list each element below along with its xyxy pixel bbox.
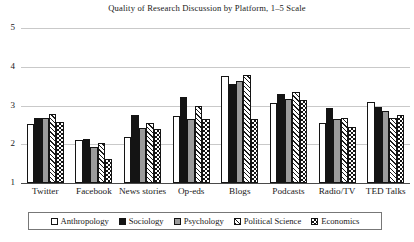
bar xyxy=(83,139,90,183)
bar xyxy=(173,116,180,183)
bar-set xyxy=(173,28,210,183)
bar-set xyxy=(124,28,161,183)
x-axis-label: Facebook xyxy=(70,186,119,197)
x-axis-label: Twitter xyxy=(21,186,70,197)
bar xyxy=(341,118,348,183)
bar-group xyxy=(270,28,307,183)
bar-group xyxy=(75,28,112,183)
bar-set xyxy=(221,28,258,183)
legend-swatch-icon xyxy=(234,218,241,225)
legend-swatch-icon xyxy=(311,218,318,225)
bar xyxy=(251,119,258,183)
gridline-1 xyxy=(21,183,410,184)
bar xyxy=(56,122,63,183)
chart-title: Quality of Research Discussion by Platfo… xyxy=(0,3,414,13)
legend-item[interactable]: Anthropology xyxy=(51,217,109,226)
bar-set xyxy=(27,28,64,183)
y-tick-label-5: 5 xyxy=(0,23,15,32)
bar xyxy=(348,127,355,183)
bar xyxy=(154,129,161,183)
bar-set xyxy=(319,28,356,183)
y-tick-label-3: 3 xyxy=(0,101,15,110)
legend-label: Psychology xyxy=(184,217,224,226)
plot-area: 12345 xyxy=(21,28,410,183)
legend-label: Political Science xyxy=(244,217,302,226)
x-axis-label: TED Talks xyxy=(361,186,410,197)
x-axis-label: News stories xyxy=(118,186,167,197)
bar-set xyxy=(367,28,404,183)
legend-item[interactable]: Sociology xyxy=(119,217,164,226)
bar xyxy=(202,119,209,183)
bar xyxy=(221,76,228,183)
x-axis-label: Op-eds xyxy=(167,186,216,197)
y-tick-label-4: 4 xyxy=(0,62,15,71)
bar xyxy=(146,123,153,183)
bar xyxy=(382,111,389,183)
legend-label: Economics xyxy=(321,217,359,226)
bar xyxy=(367,102,374,183)
bar xyxy=(42,118,49,183)
x-axis-label: Podcasts xyxy=(264,186,313,197)
bar xyxy=(397,115,404,183)
bar xyxy=(75,140,82,183)
bar xyxy=(49,114,56,183)
legend-swatch-icon xyxy=(174,218,181,225)
bar-chart: Quality of Research Discussion by Platfo… xyxy=(0,0,414,242)
bar xyxy=(195,106,202,183)
bar-set xyxy=(270,28,307,183)
bar xyxy=(285,99,292,183)
bar xyxy=(292,92,299,183)
legend-label: Anthropology xyxy=(61,217,109,226)
legend-item[interactable]: Psychology xyxy=(174,217,224,226)
bar xyxy=(34,118,41,183)
bar-group xyxy=(221,28,258,183)
bar xyxy=(105,159,112,183)
bar xyxy=(277,94,284,184)
y-tick-label-2: 2 xyxy=(0,139,15,148)
bar xyxy=(180,97,187,183)
bar xyxy=(131,115,138,183)
bar xyxy=(98,143,105,183)
legend-swatch-icon xyxy=(119,218,126,225)
bar xyxy=(389,118,396,183)
bar-group xyxy=(319,28,356,183)
bar xyxy=(27,124,34,183)
y-tick-label-1: 1 xyxy=(0,178,15,187)
bar xyxy=(243,75,250,183)
bar xyxy=(326,108,333,183)
bar xyxy=(229,84,236,183)
bar xyxy=(270,103,277,183)
bar-group xyxy=(173,28,210,183)
x-axis-label: Radio/TV xyxy=(313,186,362,197)
bar xyxy=(124,137,131,183)
x-axis-label: Blogs xyxy=(216,186,265,197)
legend-item[interactable]: Political Science xyxy=(234,217,302,226)
bar xyxy=(236,81,243,183)
bar-set xyxy=(75,28,112,183)
bar-group xyxy=(27,28,64,183)
bar-group xyxy=(367,28,404,183)
legend-item[interactable]: Economics xyxy=(311,217,359,226)
bar xyxy=(319,123,326,183)
bar xyxy=(139,128,146,183)
bar xyxy=(187,119,194,183)
bar xyxy=(375,107,382,183)
chart-legend: AnthropologySociologyPsychologyPolitical… xyxy=(28,212,382,230)
legend-swatch-icon xyxy=(51,218,58,225)
bar xyxy=(90,147,97,183)
bar xyxy=(300,100,307,183)
bar-group xyxy=(124,28,161,183)
bar xyxy=(333,119,340,183)
legend-label: Sociology xyxy=(129,217,164,226)
